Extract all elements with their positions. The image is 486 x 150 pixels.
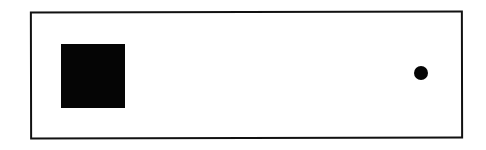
black-square xyxy=(61,44,125,108)
black-dot xyxy=(414,66,428,80)
